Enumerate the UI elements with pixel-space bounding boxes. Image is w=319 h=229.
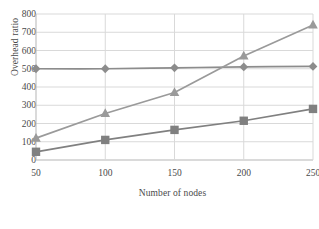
series-2-marker bbox=[308, 20, 318, 29]
x-tick-label: 150 bbox=[155, 168, 195, 179]
legend bbox=[0, 222, 319, 229]
x-axis-title: Number of nodes bbox=[30, 188, 315, 198]
series-1-marker bbox=[32, 64, 41, 73]
x-tick-label: 100 bbox=[85, 168, 125, 179]
series-3-marker bbox=[32, 148, 40, 156]
series-3-marker bbox=[309, 105, 317, 113]
series-3-marker bbox=[101, 136, 109, 144]
chart-container: Overhead ratio 0100200300400500600700800… bbox=[0, 0, 319, 229]
x-tick-label: 50 bbox=[16, 168, 56, 179]
series-1-marker bbox=[101, 64, 110, 73]
series-1-marker bbox=[309, 62, 318, 71]
x-tick-label: 200 bbox=[224, 168, 264, 179]
x-tick-label: 250 bbox=[293, 168, 319, 179]
series-3-marker bbox=[170, 126, 178, 134]
series-3-marker bbox=[240, 117, 248, 125]
series-2-marker bbox=[170, 87, 180, 96]
series-1-marker bbox=[170, 63, 179, 72]
series-1-marker bbox=[239, 63, 248, 72]
